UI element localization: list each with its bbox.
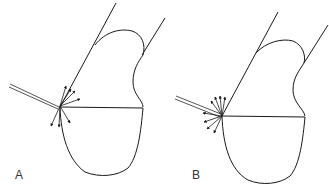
arrow	[59, 106, 60, 127]
inner-wall-line	[142, 18, 165, 55]
outer-wall-line	[60, 3, 116, 107]
lower-lobe-outline	[222, 116, 305, 183]
lower-lobe-outline	[60, 107, 143, 175]
arrow	[51, 106, 60, 126]
panel-b	[175, 12, 328, 183]
panel-label-a: A	[15, 168, 23, 182]
upper-lobe-outline	[95, 30, 144, 107]
divider-line	[60, 107, 143, 108]
probe	[9, 84, 59, 109]
diagram-canvas	[0, 0, 329, 190]
arrows	[203, 96, 225, 133]
outer-wall-line	[222, 12, 278, 116]
inner-wall-line	[304, 25, 328, 63]
upper-lobe-outline	[256, 40, 305, 116]
arrow	[207, 116, 222, 129]
arrow	[60, 106, 70, 123]
divider-line	[222, 116, 305, 117]
probe	[175, 96, 221, 117]
panel-label-b: B	[192, 168, 200, 182]
panel-a	[9, 3, 165, 175]
arrow	[60, 89, 71, 106]
arrows	[51, 86, 80, 127]
